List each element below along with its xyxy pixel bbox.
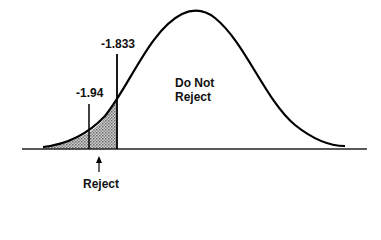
do-not-reject-label-line1: Do Not — [175, 77, 214, 90]
rejection-region-shade — [43, 100, 117, 149]
reject-label: Reject — [83, 178, 119, 191]
critical-value-label: -1.833 — [101, 38, 135, 51]
test-statistic-label: -1.94 — [76, 87, 103, 100]
arrow-up-icon — [96, 156, 102, 163]
do-not-reject-label-line2: Reject — [175, 91, 211, 104]
